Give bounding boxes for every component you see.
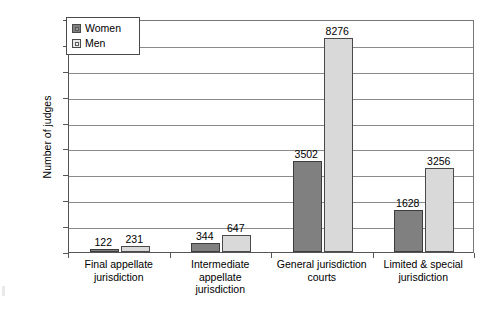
x-axis-category-label: Limited & specialjurisdiction — [373, 258, 475, 283]
scan-artifact — [2, 286, 5, 296]
bar-value-label: 647 — [213, 223, 258, 234]
bar-value-label: 231 — [112, 234, 157, 245]
gridline — [69, 176, 473, 177]
category-label-line: Limited & special — [373, 258, 475, 271]
x-axis-tick — [474, 253, 475, 258]
legend-label-men: Men — [85, 38, 105, 49]
category-label-line: Intermediate — [170, 258, 272, 271]
bar-value-label: 3256 — [416, 156, 461, 167]
category-label-line: jurisdiction — [373, 271, 475, 284]
gridline — [69, 150, 473, 151]
legend-label-women: Women — [85, 23, 121, 34]
x-axis-category-label: Intermediateappellatejurisdiction — [170, 258, 272, 296]
bar-women — [191, 243, 220, 252]
x-axis-category-label: General jurisdictioncourts — [271, 258, 373, 283]
gridline — [69, 125, 473, 126]
bar-women — [90, 249, 119, 252]
gridline — [69, 73, 473, 74]
legend-item-men: Men — [72, 36, 139, 51]
legend-item-women: Women — [72, 21, 139, 36]
bar-value-label: 3502 — [284, 149, 329, 160]
bar-women — [293, 161, 322, 252]
bar-chart: Number of judges 01000200030004000500060… — [0, 0, 496, 315]
legend-swatch-women-icon — [72, 24, 81, 33]
category-label-line: jurisdiction — [170, 283, 272, 296]
category-label-line: jurisdiction — [68, 271, 170, 284]
category-label-line: Final appellate — [68, 258, 170, 271]
x-axis-category-label: Final appellatejurisdiction — [68, 258, 170, 283]
bar-men — [425, 168, 454, 252]
bar-women — [394, 210, 423, 252]
gridline — [69, 99, 473, 100]
bar-men — [324, 38, 353, 252]
category-label-line: appellate — [170, 271, 272, 284]
category-label-line: courts — [271, 271, 373, 284]
category-label-line: General jurisdiction — [271, 258, 373, 271]
bar-value-label: 8276 — [315, 26, 360, 37]
y-axis-title: Number of judges — [41, 57, 53, 217]
legend: Women Men — [66, 17, 140, 55]
legend-swatch-men-icon — [72, 39, 81, 48]
bar-value-label: 1628 — [385, 198, 430, 209]
